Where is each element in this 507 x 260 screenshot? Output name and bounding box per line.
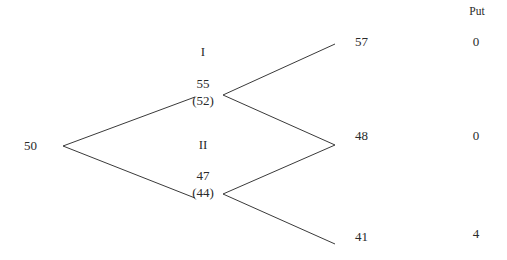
node-ii-adjusted: (44) (192, 185, 214, 200)
root-node-value: 50 (24, 138, 37, 153)
node-label-i: I (201, 44, 205, 59)
edge-node-i-to-mid (223, 95, 335, 145)
tree-edges (0, 0, 507, 260)
edge-node-ii-to-mid (223, 145, 335, 194)
edge-node-ii-to-down (223, 194, 335, 244)
node-ii-price: 47 (197, 168, 210, 183)
terminal-down-price: 41 (355, 229, 368, 244)
put-payoff-up: 0 (473, 34, 480, 49)
put-column-header: Put (469, 4, 484, 19)
edge-root-to-node-ii (63, 146, 195, 198)
terminal-mid-price: 48 (355, 128, 368, 143)
terminal-up-price: 57 (355, 34, 368, 49)
node-i-price: 55 (197, 76, 210, 91)
put-payoff-mid: 0 (473, 128, 480, 143)
put-payoff-down: 4 (473, 226, 480, 241)
node-label-ii: II (199, 137, 208, 152)
node-i-adjusted: (52) (192, 93, 214, 108)
edge-root-to-node-i (63, 97, 195, 146)
edge-node-i-to-up (223, 44, 335, 95)
